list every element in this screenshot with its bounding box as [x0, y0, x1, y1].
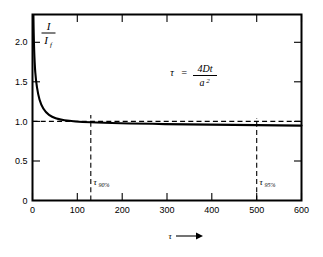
equation-denominator: a [200, 77, 205, 88]
x-tick-label: 600 [294, 205, 309, 215]
caption-cutoff-strip [0, 250, 323, 257]
x-tick-label: 300 [159, 205, 174, 215]
y-tick-label: 0 [22, 196, 27, 206]
x-tick-label: 0 [30, 205, 35, 215]
y-axis-label-denominator-subscript: f [50, 41, 53, 49]
y-axis-label: I I f [42, 20, 56, 49]
y-axis-label-numerator: I [46, 20, 52, 32]
x-axis-title-symbol: τ [168, 231, 172, 241]
figure-container: 0 100 200 300 400 500 600 0 0.5 1.0 1.5 … [0, 0, 323, 257]
equation-equals-sign: = [181, 67, 188, 78]
y-axis-ticks-right [294, 42, 302, 161]
y-tick-label: 1.0 [15, 117, 28, 127]
equation-annotation: τ = 4Dt a 2 [170, 63, 217, 88]
tau-90-subscript: 90% [99, 182, 110, 188]
equation-denominator-exponent: 2 [206, 77, 210, 85]
y-tick-label: 0.5 [15, 156, 28, 166]
x-tick-label: 200 [115, 205, 130, 215]
x-axis-ticks-top [77, 15, 301, 23]
tau-90-symbol: τ [94, 177, 98, 187]
y-tick-label: 2.0 [15, 37, 28, 47]
x-axis-title-arrow-head [196, 233, 203, 240]
tau-95-label: τ 95% [260, 177, 276, 189]
y-tick-label: 1.5 [15, 77, 28, 87]
x-tick-label: 100 [70, 205, 85, 215]
tau-90-label: τ 90% [94, 177, 110, 189]
x-tick-label: 400 [204, 205, 219, 215]
x-axis-ticks-bottom [33, 193, 302, 201]
plot-frame [33, 15, 302, 201]
chart-plot: 0 100 200 300 400 500 600 0 0.5 1.0 1.5 … [0, 0, 323, 257]
x-tick-labels: 0 100 200 300 400 500 600 [30, 205, 309, 215]
y-tick-labels: 0 0.5 1.0 1.5 2.0 [15, 37, 28, 205]
tau-95-subscript: 95% [265, 182, 276, 188]
tau-95-symbol: τ [260, 177, 264, 187]
x-axis-title: τ [168, 231, 203, 241]
y-axis-label-denominator: I [43, 34, 49, 46]
x-tick-label: 500 [249, 205, 264, 215]
equation-numerator: 4Dt [198, 63, 213, 74]
decay-curve [33, 15, 301, 126]
equation-lhs: τ [170, 67, 174, 78]
